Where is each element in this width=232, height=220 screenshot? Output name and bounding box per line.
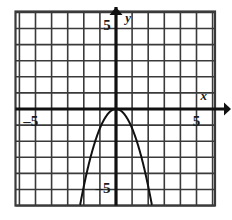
tick-label-3: 5: [193, 113, 201, 129]
x-axis-name: x: [199, 88, 207, 103]
tick-label-2: –5: [22, 113, 38, 129]
y-axis-name: y: [123, 10, 131, 25]
graph-figure: 5y–55x–5: [0, 0, 232, 220]
tick-label-0: 5: [103, 17, 111, 33]
tick-label-5: –5: [95, 180, 111, 196]
axes: [16, 7, 232, 206]
coordinate-plane-graph: 5y–55x–5: [0, 0, 232, 220]
